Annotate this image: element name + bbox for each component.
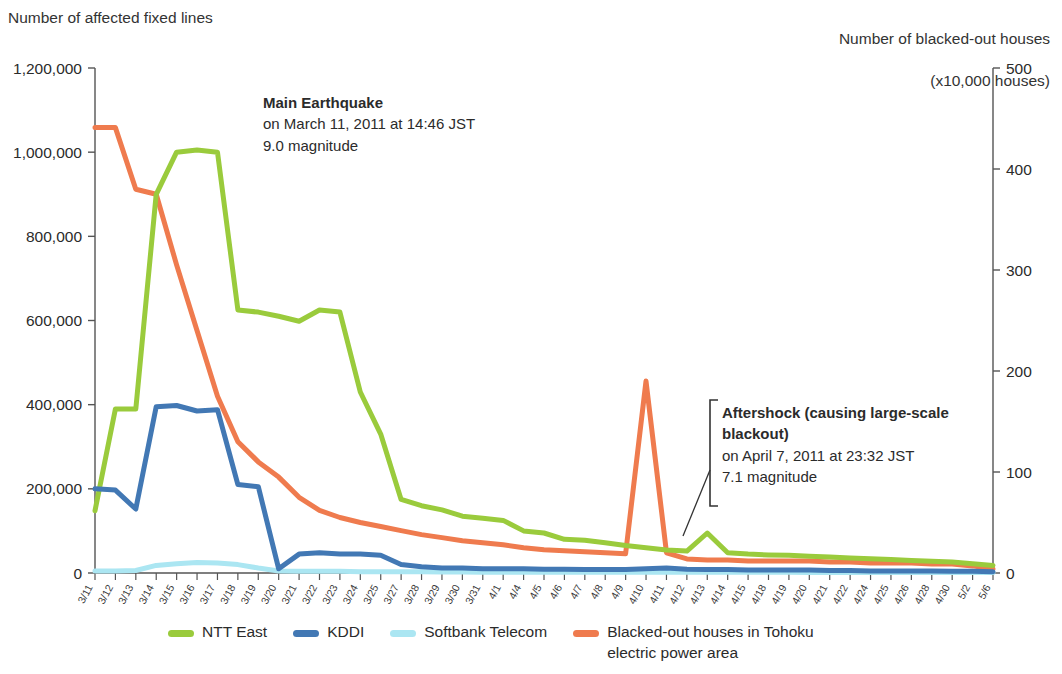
- x-axis-tick-label: 4/28: [911, 582, 931, 606]
- y-axis-left-tick-label: 1,200,000: [13, 60, 82, 77]
- x-axis-ticks: 3/113/123/133/143/153/163/173/183/193/20…: [75, 573, 993, 606]
- y-axis-right-tick-label: 200: [1006, 363, 1032, 380]
- x-axis-tick-label: 4/1: [485, 582, 503, 601]
- x-axis-tick-label: 4/13: [687, 582, 707, 606]
- x-axis-tick-label: 3/30: [442, 582, 462, 606]
- x-axis-tick-label: 3/21: [279, 582, 299, 606]
- x-axis-tick-label: 4/25: [871, 582, 891, 606]
- legend-item[interactable]: NTT East: [168, 622, 267, 643]
- x-axis-tick-label: 3/31: [462, 582, 482, 606]
- x-axis-tick-label: 4/15: [728, 582, 748, 606]
- x-axis-tick-label: 4/14: [707, 582, 727, 606]
- legend-item[interactable]: Blacked-out houses in Tohoku electric po…: [573, 622, 857, 664]
- x-axis-tick-label: 5/6: [975, 582, 993, 601]
- callout-brackets: [683, 400, 718, 536]
- x-axis-tick-label: 4/5: [526, 582, 544, 601]
- legend-item[interactable]: KDDI: [293, 622, 364, 643]
- y-axis-left-tick-label: 400,000: [26, 396, 82, 413]
- x-axis-tick-label: 3/17: [197, 582, 217, 606]
- x-axis-tick-label: 3/16: [177, 582, 197, 606]
- series-line-blacked-out-houses-in-tohoku-electric-power-area: [95, 128, 993, 569]
- legend-label: NTT East: [202, 622, 267, 643]
- y-axis-right-tick-label: 100: [1006, 464, 1032, 481]
- x-axis-tick-label: 4/22: [830, 582, 850, 606]
- x-axis-tick-label: 4/4: [506, 582, 524, 601]
- legend-item[interactable]: Softbank Telecom: [390, 622, 547, 643]
- series-line-ntt-east: [95, 150, 993, 565]
- x-axis-tick-label: 3/25: [360, 582, 380, 606]
- x-axis-tick-label: 3/12: [95, 582, 115, 606]
- x-axis-tick-label: 5/2: [955, 582, 973, 601]
- x-axis-tick-label: 3/20: [258, 582, 278, 606]
- y-axis-left-tick-label: 200,000: [26, 480, 82, 497]
- x-axis-tick-label: 3/14: [136, 582, 156, 606]
- x-axis-tick-label: 3/28: [401, 582, 421, 606]
- y-axis-left-tick-label: 600,000: [26, 312, 82, 329]
- line-chart: 3/113/123/133/143/153/163/173/183/193/20…: [0, 0, 1062, 674]
- x-axis-tick-label: 4/20: [789, 582, 809, 606]
- x-axis-tick-label: 4/21: [809, 582, 829, 606]
- y-axis-left-ticks: 0200,000400,000600,000800,0001,000,0001,…: [13, 60, 95, 582]
- legend-label: Softbank Telecom: [424, 622, 547, 643]
- aftershock-leader-line: [683, 470, 710, 536]
- y-axis-right-tick-label: 0: [1006, 565, 1015, 582]
- x-axis-tick-label: 3/22: [299, 582, 319, 606]
- legend-swatch-icon: [293, 630, 319, 637]
- legend-swatch-icon: [573, 630, 599, 637]
- legend-swatch-icon: [390, 630, 416, 637]
- aftershock-bracket: [710, 400, 718, 506]
- x-axis-tick-label: 3/24: [340, 582, 360, 606]
- x-axis-tick-label: 4/6: [547, 582, 565, 601]
- y-axis-right-tick-label: 300: [1006, 262, 1032, 279]
- y-axis-left-tick-label: 800,000: [26, 228, 82, 245]
- y-axis-left-tick-label: 1,000,000: [13, 144, 82, 161]
- legend-label: Blacked-out houses in Tohoku electric po…: [607, 622, 857, 664]
- legend-swatch-icon: [168, 630, 194, 637]
- y-axis-right-tick-label: 500: [1006, 60, 1032, 77]
- x-axis-tick-label: 3/18: [217, 582, 237, 606]
- x-axis-tick-label: 4/9: [608, 582, 626, 601]
- x-axis-tick-label: 3/19: [238, 582, 258, 606]
- x-axis-tick-label: 3/27: [381, 582, 401, 606]
- x-axis-tick-label: 4/8: [588, 582, 606, 601]
- x-axis-tick-label: 3/29: [422, 582, 442, 606]
- series-group: [95, 128, 993, 573]
- x-axis-tick-label: 3/13: [115, 582, 135, 606]
- legend-label: KDDI: [327, 622, 364, 643]
- axes-group: [95, 68, 993, 573]
- x-axis-tick-label: 4/24: [850, 582, 870, 606]
- x-axis-tick-label: 3/15: [156, 582, 176, 606]
- x-axis-tick-label: 3/11: [75, 582, 95, 605]
- x-axis-tick-label: 4/30: [932, 582, 952, 606]
- x-axis-tick-label: 4/19: [768, 582, 788, 606]
- series-line-kddi: [95, 406, 993, 572]
- chart-legend: NTT EastKDDISoftbank TelecomBlacked-out …: [168, 622, 857, 664]
- x-axis-tick-label: 4/12: [666, 582, 686, 606]
- x-axis-tick-label: 4/7: [567, 582, 585, 601]
- y-axis-left-tick-label: 0: [73, 565, 82, 582]
- x-axis-tick-label: 3/23: [319, 582, 339, 606]
- x-axis-tick-label: 4/11: [646, 582, 666, 605]
- x-axis-tick-label: 4/26: [891, 582, 911, 606]
- y-axis-right-tick-label: 400: [1006, 161, 1032, 178]
- x-axis-tick-label: 4/18: [748, 582, 768, 606]
- x-axis-tick-label: 4/10: [626, 582, 646, 606]
- y-axis-right-ticks: 0100200300400500: [993, 60, 1032, 582]
